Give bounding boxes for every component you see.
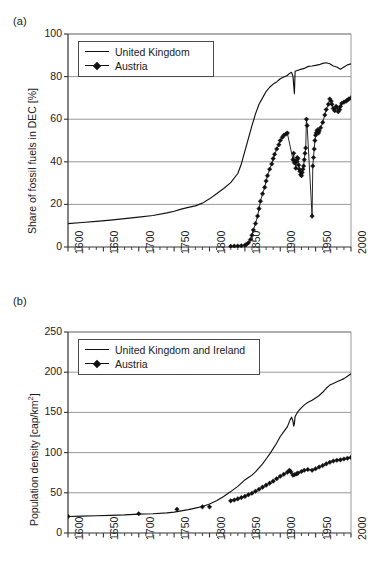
x-tick-label: 1600 xyxy=(73,517,85,540)
data-point xyxy=(265,173,270,178)
x-tick-label: 2000 xyxy=(356,231,368,254)
x-tick-label: 1600 xyxy=(73,231,85,254)
y-tick-label: 0 xyxy=(32,240,62,252)
data-point xyxy=(305,123,310,128)
data-point xyxy=(253,221,258,226)
legend-line-marker-swatch xyxy=(83,60,111,72)
data-point xyxy=(66,514,71,519)
x-tick-label: 2000 xyxy=(356,517,368,540)
legend-line-swatch xyxy=(83,46,111,58)
data-point xyxy=(345,456,350,461)
data-point xyxy=(258,199,263,204)
data-point xyxy=(310,164,315,169)
data-point xyxy=(262,185,267,190)
data-point xyxy=(260,191,265,196)
x-tick-label: 1900 xyxy=(285,231,297,254)
data-point xyxy=(324,107,329,112)
x-tick-label: 1750 xyxy=(179,231,191,254)
series-line-1 xyxy=(231,98,351,246)
legend-item: Austria xyxy=(83,357,253,371)
data-point xyxy=(207,505,212,510)
x-tick-label: 1700 xyxy=(144,517,156,540)
series-line-0 xyxy=(68,63,351,224)
x-tick-label: 1950 xyxy=(321,517,333,540)
legend-item: United Kingdom xyxy=(83,45,207,59)
data-point xyxy=(310,214,315,219)
data-point xyxy=(255,214,260,219)
legend-label: United Kingdom and Ireland xyxy=(115,344,245,356)
data-point xyxy=(228,499,233,504)
legend-line-swatch xyxy=(83,344,111,356)
data-point xyxy=(271,156,276,161)
legend-label: Austria xyxy=(115,358,148,370)
figure-container: (a) 020406080100160016501700175018001850… xyxy=(0,0,377,587)
data-point xyxy=(277,142,282,147)
data-point xyxy=(320,120,325,125)
legend-item: United Kingdom and Ireland xyxy=(83,343,253,357)
y-tick-label: 100 xyxy=(32,27,62,39)
x-tick-label: 1700 xyxy=(144,231,156,254)
y-tick-label: 0 xyxy=(32,526,62,538)
data-point xyxy=(342,457,347,462)
data-point xyxy=(274,147,279,152)
x-tick-label: 1650 xyxy=(108,517,120,540)
x-tick-label: 1750 xyxy=(179,517,191,540)
data-point xyxy=(269,162,274,167)
x-tick-label: 1850 xyxy=(250,517,262,540)
x-tick-label: 1800 xyxy=(215,517,227,540)
data-point xyxy=(313,138,318,143)
data-point xyxy=(200,505,205,510)
chart-legend: United KingdomAustria xyxy=(78,41,214,77)
x-tick-label: 1650 xyxy=(108,231,120,254)
y-tick-label: 80 xyxy=(32,70,62,82)
data-point xyxy=(311,155,316,160)
data-point xyxy=(349,455,354,460)
data-point xyxy=(267,167,272,172)
chart-panel-b: (b) 050100150200250160016501700175018001… xyxy=(0,290,377,587)
y-tick-label: 250 xyxy=(32,325,62,337)
y-axis-title: Population density [cap/km2] xyxy=(26,393,40,526)
data-point xyxy=(257,206,262,211)
legend-label: United Kingdom xyxy=(115,46,190,58)
chart-panel-a: (a) 020406080100160016501700175018001850… xyxy=(0,0,377,290)
data-point xyxy=(302,157,307,162)
chart-legend: United Kingdom and IrelandAustria xyxy=(78,339,260,375)
y-tick-label: 200 xyxy=(32,365,62,377)
x-tick-label: 1900 xyxy=(285,517,297,540)
data-point xyxy=(303,151,308,156)
data-point xyxy=(304,117,309,122)
legend-line-marker-swatch xyxy=(83,358,111,370)
data-point xyxy=(323,113,328,118)
x-tick-label: 1800 xyxy=(215,231,227,254)
legend-item: Austria xyxy=(83,59,207,73)
x-tick-label: 1850 xyxy=(250,231,262,254)
legend-label: Austria xyxy=(115,60,148,72)
y-axis-title: Share of fossil fuels in DEC [%] xyxy=(26,88,38,234)
data-point xyxy=(303,146,308,151)
series-line-0 xyxy=(68,374,351,517)
x-tick-label: 1950 xyxy=(321,231,333,254)
data-point xyxy=(306,467,311,472)
data-point xyxy=(136,511,141,516)
data-point xyxy=(312,147,317,152)
data-point xyxy=(272,152,277,157)
data-point xyxy=(338,458,343,463)
data-point xyxy=(264,179,269,184)
